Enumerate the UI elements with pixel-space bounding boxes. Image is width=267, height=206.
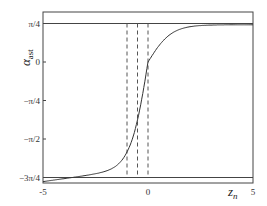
y-tick-label: 0 <box>36 57 41 67</box>
y-tick-label: −3π/4 <box>19 173 41 183</box>
y-tick-label: π/4 <box>28 19 40 29</box>
y-axis-ticks: π/40−π/4−π/2−3π/4 <box>19 19 46 183</box>
vertical-dashed-lines <box>127 24 148 178</box>
y-tick-label: −π/4 <box>23 96 40 106</box>
x-axis-ticks: -505 <box>39 187 256 197</box>
y-axis-label: αast <box>18 49 35 66</box>
chart: π/40−π/4−π/2−3π/4 -505 αast zn <box>0 0 267 206</box>
x-tick-label: 0 <box>146 187 151 197</box>
x-axis-label: zn <box>227 184 238 201</box>
x-tick-label: -5 <box>39 187 47 197</box>
y-tick-label: −π/2 <box>23 134 40 144</box>
x-tick-label: 5 <box>251 187 256 197</box>
